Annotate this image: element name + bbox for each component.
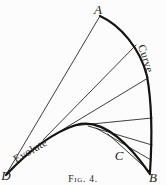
point-label-a: A: [93, 2, 102, 17]
tangent-line-3: [62, 78, 148, 130]
figure-caption: Fig. 4.: [0, 174, 166, 184]
tangent-line-2: [43, 45, 136, 140]
curve-text-label: Curve: [136, 43, 156, 74]
figure-drawing: A B C D Curve Evolute: [0, 0, 166, 185]
point-label-c: C: [115, 148, 124, 163]
curve-arc: [100, 16, 151, 172]
figure-container: A B C D Curve Evolute Fig. 4.: [0, 0, 166, 185]
evolute-text-label: Evolute: [11, 136, 49, 165]
